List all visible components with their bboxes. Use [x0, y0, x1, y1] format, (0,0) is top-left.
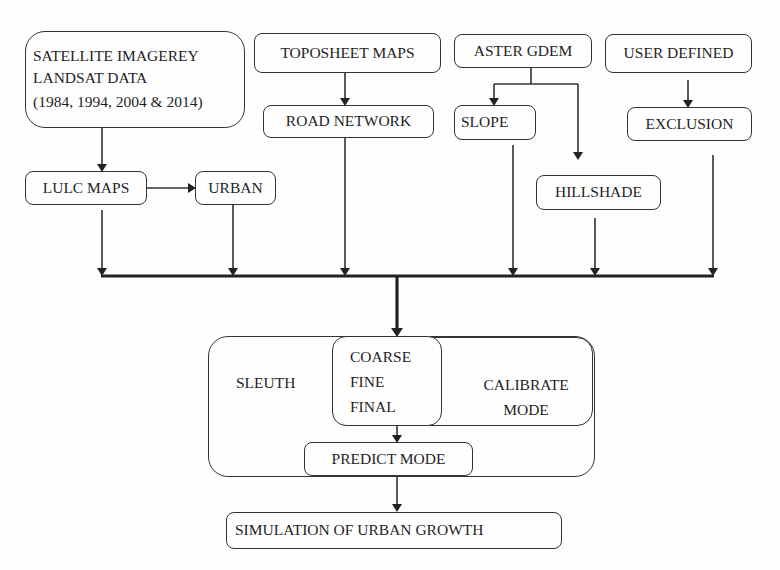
satellite-line2: LANDSAT DATA — [33, 67, 147, 89]
calibrate-line2: MODE — [466, 397, 586, 422]
hillshade-label: HILLSHADE — [555, 183, 642, 202]
urban-label: URBAN — [208, 179, 262, 198]
road-network-box: ROAD NETWORK — [263, 105, 434, 138]
sleuth-label: SLEUTH — [236, 373, 295, 392]
calibrate-line1: CALIBRATE — [466, 372, 586, 397]
satellite-imagery-box: SATELLITE IMAGEREY LANDSAT DATA (1984, 1… — [25, 31, 245, 128]
satellite-line3: (1984, 1994, 2004 & 2014) — [33, 89, 203, 115]
user-defined-label: USER DEFINED — [624, 44, 734, 63]
user-defined-box: USER DEFINED — [605, 34, 752, 73]
toposheet-label: TOPOSHEET MAPS — [280, 44, 414, 63]
hillshade-box: HILLSHADE — [536, 175, 661, 210]
satellite-line1: SATELLITE IMAGEREY — [33, 45, 199, 67]
lulc-maps-box: LULC MAPS — [25, 171, 147, 205]
calibrate-mode-label: CALIBRATE MODE — [466, 372, 586, 422]
lulc-label: LULC MAPS — [43, 179, 130, 198]
phase-final: FINAL — [350, 394, 396, 419]
exclusion-label: EXCLUSION — [646, 115, 734, 134]
phase-fine: FINE — [350, 369, 384, 394]
toposheet-maps-box: TOPOSHEET MAPS — [254, 33, 441, 73]
exclusion-box: EXCLUSION — [627, 107, 752, 141]
simulation-output-box: SIMULATION OF URBAN GROWTH — [226, 512, 562, 549]
simulation-label: SIMULATION OF URBAN GROWTH — [235, 521, 483, 540]
slope-label: SLOPE — [461, 113, 508, 132]
aster-label: ASTER GDEM — [474, 42, 573, 61]
urban-box: URBAN — [195, 171, 276, 205]
predict-mode-box: PREDICT MODE — [304, 442, 473, 476]
slope-box: SLOPE — [454, 105, 536, 140]
flowchart-canvas: SATELLITE IMAGEREY LANDSAT DATA (1984, 1… — [0, 0, 780, 570]
road-label: ROAD NETWORK — [286, 112, 411, 131]
aster-gdem-box: ASTER GDEM — [454, 34, 592, 68]
predict-label: PREDICT MODE — [332, 450, 446, 469]
phase-coarse: COARSE — [350, 344, 411, 369]
calibration-phases-box: COARSE FINE FINAL — [332, 336, 442, 426]
